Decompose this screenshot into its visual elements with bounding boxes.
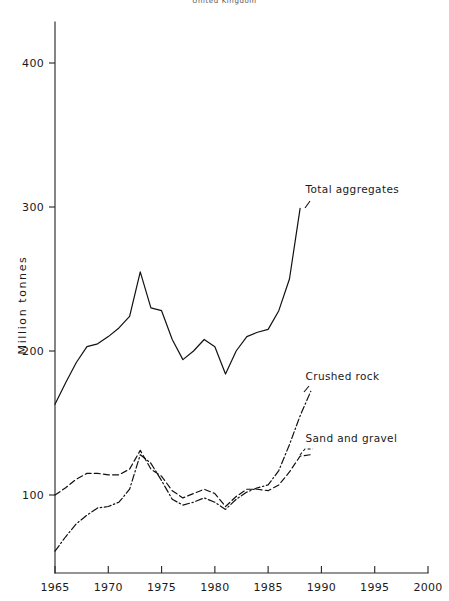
x-tick-label-1985: 1985: [254, 581, 283, 594]
y-tick-label-300: 300: [22, 201, 44, 214]
y-tick-label-400: 400: [22, 57, 44, 70]
series-annotations: Total aggregatesCrushed rockSand and gra…: [300, 183, 399, 455]
annotation-total-aggregates: Total aggregates: [304, 183, 399, 195]
series-line-crushed-rock: [55, 391, 311, 551]
leader-crushed-rock: [304, 386, 309, 392]
annotation-crushed-rock: Crushed rock: [305, 370, 380, 382]
line-chart-plot: 100200300400 196519701975198019851990199…: [0, 0, 449, 601]
x-tick-label-1975: 1975: [147, 581, 176, 594]
chart-title: United Kingdom: [0, 0, 449, 6]
series-line-total-aggregates: [55, 208, 300, 404]
x-tick-label-1980: 1980: [200, 581, 229, 594]
x-tick-label-1965: 1965: [40, 581, 69, 594]
chart-axes: [55, 22, 428, 573]
x-tick-label-1995: 1995: [360, 581, 389, 594]
x-tick-label-1970: 1970: [94, 581, 123, 594]
x-tick-label-2000: 2000: [413, 581, 442, 594]
y-tick-label-100: 100: [22, 489, 44, 502]
x-tick-label-1990: 1990: [307, 581, 336, 594]
leader-total-aggregates: [305, 201, 310, 208]
leader-sand-and-gravel: [300, 449, 313, 455]
chart-figure: United Kingdom 100200300400 196519701975…: [0, 0, 449, 601]
data-series-group: [55, 208, 311, 551]
annotation-sand-and-gravel: Sand and gravel: [305, 432, 397, 444]
y-axis-label: Million tonnes: [16, 256, 29, 355]
x-axis-ticks: 19651970197519801985199019952000: [40, 566, 442, 594]
